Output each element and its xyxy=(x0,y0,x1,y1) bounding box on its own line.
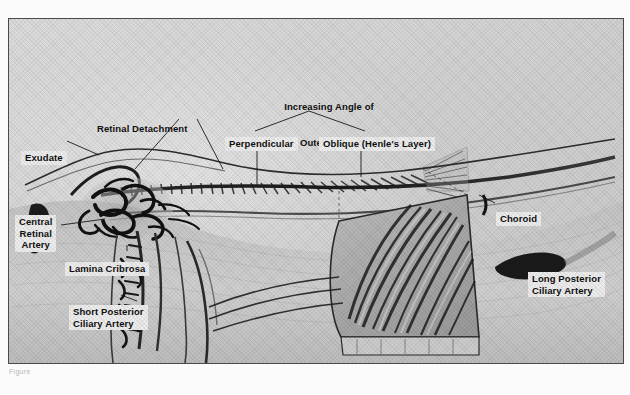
leader-exudate xyxy=(67,141,99,155)
label-perpendicular: Perpendicular xyxy=(225,137,298,151)
label-long-posterior-ciliary-artery: Long Posterior Ciliary Artery xyxy=(528,272,605,297)
label-oblique-henles-layer: Oblique (Henle's Layer) xyxy=(319,137,435,151)
label-choroid: Choroid xyxy=(496,212,541,226)
label-exudate: Exudate xyxy=(21,151,67,165)
figure-title: Increasing Angle of Fibers in Outer Plex… xyxy=(209,77,449,173)
figure-title-line-1: Increasing Angle of xyxy=(209,101,449,113)
figure-caption: Figure xyxy=(9,368,31,375)
label-lamina-cribrosa: Lamina Cribrosa xyxy=(65,262,149,276)
label-retinal-detachment: Retinal Detachment xyxy=(97,123,188,135)
figure-root: Increasing Angle of Fibers in Outer Plex… xyxy=(0,0,630,395)
label-central-retinal-artery: Central Retinal Artery xyxy=(15,215,56,252)
label-short-posterior-ciliary-artery: Short Posterior Ciliary Artery xyxy=(69,305,148,330)
illustration-plate: Increasing Angle of Fibers in Outer Plex… xyxy=(8,18,624,364)
